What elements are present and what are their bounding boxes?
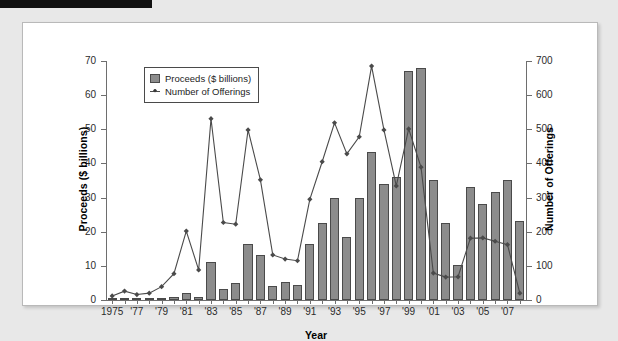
x-tick-mark [149,300,150,304]
data-point-marker [406,126,411,131]
right-tick-mark [527,95,532,96]
data-point-marker [381,127,386,132]
right-tick-label: 700 [536,56,576,66]
data-point-marker [110,293,115,298]
chart-legend: Proceeds ($ billions) Number of Offering… [144,67,259,103]
data-point-marker [270,252,275,257]
figure-panel: 010203040506070 0100200300400500600700 1… [22,22,598,306]
x-tick-mark [137,300,138,304]
right-tick-label: 600 [536,90,576,100]
page-header-bar [0,0,152,8]
x-tick-mark [186,300,187,304]
x-tick-mark [273,300,274,304]
x-axis-line [106,300,527,301]
data-point-marker [505,242,510,247]
left-tick-label: 70 [56,56,96,66]
data-point-marker [147,291,152,296]
x-tick-mark [285,300,286,304]
data-point-marker [245,127,250,132]
x-tick-mark [335,300,336,304]
x-tick-mark [495,300,496,304]
x-tick-mark [520,300,521,304]
x-tick-mark [433,300,434,304]
bar-swatch-icon [150,74,160,83]
x-tick-mark [421,300,422,304]
x-tick-mark [322,300,323,304]
x-axis-title: Year [106,329,526,341]
x-tick-mark [396,300,397,304]
x-tick-mark [458,300,459,304]
right-tick-mark [527,129,532,130]
data-point-marker [468,236,473,241]
x-tick-mark [409,300,410,304]
x-tick-mark [359,300,360,304]
data-point-marker [233,222,238,227]
data-point-marker [134,292,139,297]
right-tick-label: 400 [536,158,576,168]
x-tick-mark [236,300,237,304]
data-point-marker [283,256,288,261]
right-axis-line [526,61,527,300]
x-tick-mark [112,300,113,304]
right-tick-label: 0 [536,295,576,305]
left-axis-title: Proceeds ($ billions) [77,69,89,289]
data-point-marker [307,197,312,202]
x-tick-mark [260,300,261,304]
x-tick-mark [372,300,373,304]
left-tick-label: 30 [56,193,96,203]
data-point-marker [455,274,460,279]
right-tick-mark [527,266,532,267]
data-point-marker [208,116,213,121]
x-tick-mark [297,300,298,304]
data-point-marker [493,239,498,244]
x-tick-mark [483,300,484,304]
x-tick-mark [174,300,175,304]
left-tick-label: 40 [56,158,96,168]
x-tick-label: '07 [487,306,527,317]
left-tick-label: 0 [56,295,96,305]
x-tick-mark [470,300,471,304]
data-point-marker [221,220,226,225]
legend-label-offerings: Number of Offerings [165,85,250,98]
data-point-marker [332,120,337,125]
right-tick-label: 500 [536,124,576,134]
right-tick-mark [527,300,532,301]
x-tick-mark [310,300,311,304]
x-tick-mark [446,300,447,304]
data-point-marker [418,165,423,170]
x-tick-mark [248,300,249,304]
data-point-marker [443,275,448,280]
x-tick-mark [347,300,348,304]
legend-item-proceeds: Proceeds ($ billions) [150,72,251,85]
data-point-marker [122,289,127,294]
data-point-marker [295,258,300,263]
right-tick-mark [527,198,532,199]
right-axis-title: Number of Offerings [543,69,555,289]
left-tick-label: 50 [56,124,96,134]
left-tick-label: 20 [56,227,96,237]
data-point-marker [184,228,189,233]
data-point-marker [369,64,374,69]
data-point-marker [320,159,325,164]
left-tick-mark [101,300,106,301]
data-point-marker [394,183,399,188]
x-tick-mark [223,300,224,304]
line-diamond-marker-icon [150,87,160,96]
right-tick-label: 300 [536,193,576,203]
data-point-marker [480,235,485,240]
right-tick-mark [527,232,532,233]
legend-label-proceeds: Proceeds ($ billions) [165,72,251,85]
x-tick-mark [125,300,126,304]
plot-area: 010203040506070 0100200300400500600700 1… [106,61,526,300]
data-point-marker [431,270,436,275]
left-tick-label: 10 [56,261,96,271]
right-tick-mark [527,61,532,62]
right-tick-label: 100 [536,261,576,271]
data-point-marker [196,267,201,272]
right-tick-mark [527,163,532,164]
x-tick-mark [162,300,163,304]
x-tick-mark [384,300,385,304]
data-point-marker [258,177,263,182]
x-tick-mark [507,300,508,304]
